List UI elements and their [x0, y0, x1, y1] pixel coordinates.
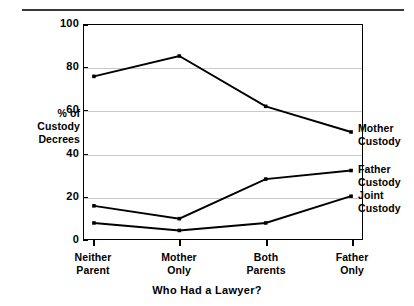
- data-point-marker: [178, 217, 182, 221]
- series-lines-svg: [84, 25, 362, 239]
- series-label-line-2: Custody: [358, 135, 401, 148]
- y-tick-40: 40: [49, 148, 79, 159]
- series-line-mother-custody: [94, 56, 351, 132]
- data-point-marker: [264, 177, 268, 181]
- series-label-line-1: Mother: [358, 122, 394, 134]
- chart-figure: % of Custody Decrees 100 80 60 40 20 0 N…: [0, 0, 414, 306]
- series-label-joint-custody: Joint Custody: [358, 189, 401, 214]
- x-label-line-2: Only: [340, 264, 364, 276]
- y-tick-60: 60: [49, 104, 79, 115]
- series-label-father-custody: Father Custody: [358, 163, 401, 188]
- series-line-father-custody: [94, 171, 351, 219]
- x-label-line-2: Only: [167, 264, 191, 276]
- x-label-both-parents: Both Parents: [218, 251, 314, 277]
- x-tick-mark-father-only: [352, 240, 354, 246]
- x-label-line-1: Neither: [75, 251, 112, 263]
- data-point-marker: [349, 194, 353, 198]
- y-tick-100: 100: [49, 18, 79, 29]
- y-tick-0: 0: [49, 234, 79, 245]
- header-divider: [22, 9, 404, 11]
- x-label-line-1: Father: [336, 251, 369, 263]
- y-axis-tick-labels: 100 80 60 40 20 0: [46, 24, 79, 240]
- x-tick-mark-both-parents: [266, 240, 268, 246]
- x-label-father-only: Father Only: [304, 251, 400, 277]
- x-tick-mark-neither-parent: [93, 240, 95, 246]
- x-axis-title: Who Had a Lawyer?: [0, 284, 414, 296]
- data-point-marker: [349, 130, 353, 134]
- x-label-line-1: Both: [254, 251, 278, 263]
- data-point-marker: [92, 221, 96, 225]
- data-point-marker: [178, 229, 182, 233]
- x-label-mother-only: Mother Only: [131, 251, 227, 277]
- series-line-joint-custody: [94, 196, 351, 230]
- data-point-marker: [92, 75, 96, 79]
- data-point-marker: [264, 221, 268, 225]
- x-label-line-2: Parents: [246, 264, 285, 276]
- series-group: [92, 54, 353, 232]
- series-label-mother-custody: Mother Custody: [358, 122, 401, 147]
- plot-area: [83, 24, 363, 240]
- x-tick-mark-mother-only: [179, 240, 181, 246]
- data-point-marker: [264, 105, 268, 109]
- x-label-line-1: Mother: [161, 251, 197, 263]
- x-label-neither-parent: Neither Parent: [45, 251, 141, 277]
- data-point-marker: [92, 204, 96, 208]
- y-tick-20: 20: [49, 191, 79, 202]
- series-label-line-2: Custody: [358, 202, 401, 215]
- series-label-line-2: Custody: [358, 176, 401, 189]
- series-label-line-1: Father: [358, 163, 391, 175]
- y-tick-80: 80: [49, 61, 79, 72]
- data-point-marker: [178, 54, 182, 58]
- data-point-marker: [349, 169, 353, 173]
- x-label-line-2: Parent: [76, 264, 109, 276]
- series-label-line-1: Joint: [358, 189, 384, 201]
